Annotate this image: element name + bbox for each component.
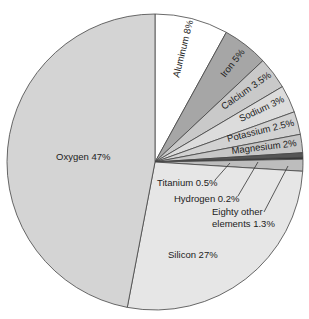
pie-chart: Aluminum 8% Iron 5% Calcium 3.5% Sodium … — [0, 0, 309, 319]
pie-slices — [7, 14, 303, 310]
label-titanium: Titanium 0.5% — [157, 177, 218, 188]
label-oxygen: Oxygen 47% — [56, 151, 111, 162]
label-other-line2: elements 1.3% — [212, 218, 275, 229]
label-silicon: Silicon 27% — [168, 249, 218, 260]
label-other-line1: Eighty other — [212, 206, 263, 217]
label-hydrogen: Hydrogen 0.2% — [174, 193, 240, 204]
